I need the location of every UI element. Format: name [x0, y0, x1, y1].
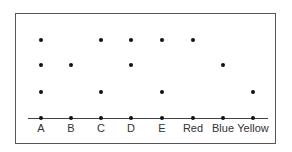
dot-yellow-row-1	[251, 90, 255, 94]
dot-red-row-0	[191, 116, 195, 120]
category-label-c: C	[97, 122, 105, 134]
dot-blue-row-0	[221, 116, 225, 120]
dot-e-row-1	[160, 90, 164, 94]
dot-c-row-1	[99, 90, 103, 94]
dot-c-row-3	[99, 38, 103, 42]
category-label-b: B	[67, 122, 74, 134]
dot-d-row-0	[129, 116, 133, 120]
category-label-d: D	[127, 122, 135, 134]
dot-e-row-0	[160, 116, 164, 120]
dot-a-row-2	[39, 63, 43, 67]
dot-e-row-3	[160, 38, 164, 42]
dot-d-row-3	[129, 38, 133, 42]
dot-yellow-row-0	[251, 116, 255, 120]
dot-blue-row-2	[221, 63, 225, 67]
category-label-yellow: Yellow	[237, 122, 268, 134]
dot-red-row-3	[191, 38, 195, 42]
dot-d-row-2	[129, 63, 133, 67]
dot-c-row-0	[99, 116, 103, 120]
dot-a-row-0	[39, 116, 43, 120]
dot-b-row-2	[69, 63, 73, 67]
category-label-a: A	[37, 122, 44, 134]
dot-b-row-0	[69, 116, 73, 120]
baseline-axis	[28, 118, 268, 119]
category-label-red: Red	[183, 122, 203, 134]
dot-a-row-3	[39, 38, 43, 42]
category-label-e: E	[158, 122, 165, 134]
dot-a-row-1	[39, 90, 43, 94]
category-label-blue: Blue	[212, 122, 234, 134]
